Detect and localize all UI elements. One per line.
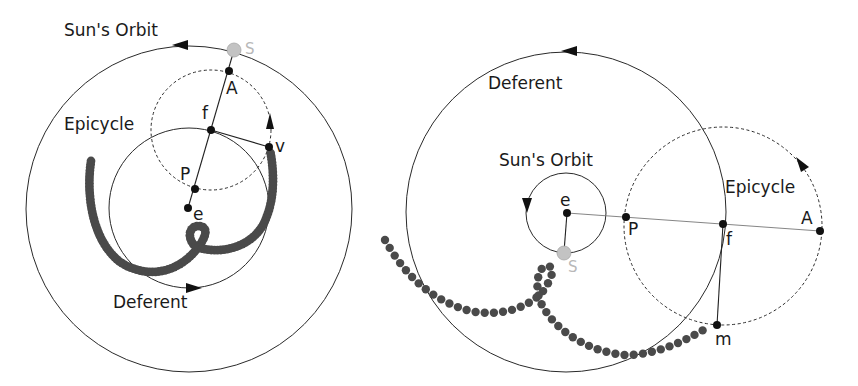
trail-dot [602,348,610,356]
trail-dot [396,259,404,267]
left-point-v [265,143,273,151]
trail-dot [386,244,394,252]
left-label-f: f [202,103,209,123]
left-point-f [207,126,215,134]
ptolemaic-diagrams: S A f P e v Sun's Orbit Epicycle Deferen… [0,0,858,386]
left-sun-orbit-arrow-icon [172,40,188,50]
right-epicycle-label: Epicycle [725,177,795,197]
right-label-A: A [801,208,813,228]
left-epicycle-label: Epicycle [64,114,134,134]
trail-dot [429,290,437,298]
left-sun-orbit-label: Sun's Orbit [64,20,158,40]
trail-dot [391,251,399,259]
right-label-P: P [628,219,638,239]
trail-dot [690,331,698,339]
left-line-f-to-v [211,130,269,147]
trail-dot [508,306,516,314]
trail-dot [381,236,389,244]
trail-dot [548,315,556,323]
trail-dot [481,309,489,317]
trail-dot [525,299,533,307]
trail-dot [630,351,638,359]
right-deferent-arrow-icon [561,46,577,56]
right-panel: S e P f A m Deferent Sun's Orbit Epicycl… [381,46,824,372]
trail-dot [538,265,546,273]
trail-dot [534,291,542,299]
trail-dot [402,266,410,274]
right-sun-orbit-label: Sun's Orbit [499,150,593,170]
trail-dot [620,351,628,359]
right-sun-orbit-arrow-icon [522,198,532,213]
trail-dot [490,309,498,317]
trail-dot [611,350,619,358]
trail-dot [517,303,525,311]
right-label-m: m [715,329,732,349]
trail-dot [542,308,550,316]
left-label-P: P [180,164,190,184]
left-label-v: v [275,136,285,156]
left-deferent-label: Deferent [113,292,188,312]
right-point-A [816,227,824,235]
trail-dot [546,262,554,270]
trail-dot [554,322,562,330]
trail-dot [533,282,541,290]
left-label-e: e [193,204,203,224]
trail-dot [454,303,462,311]
right-line-f-to-m [717,224,723,325]
trail-dot [437,295,445,303]
right-point-f [719,220,727,228]
trail-dot [648,348,656,356]
left-sun-label: S [245,40,255,58]
right-planet-trail [381,236,707,359]
trail-dot [408,273,416,281]
right-label-f: f [726,229,733,249]
trail-dot [593,345,601,353]
left-deferent-arrow-icon [186,283,202,293]
trail-dot [657,345,665,353]
left-point-P [191,185,199,193]
left-label-A: A [226,78,238,98]
left-epicycle-arrow-icon [266,113,274,129]
right-deferent-label: Deferent [488,73,563,93]
left-point-e [184,204,192,212]
right-sun-label: S [568,258,578,276]
trail-dot [471,308,479,316]
trail-dot [499,308,507,316]
right-epicycle-arrow-icon [796,157,809,172]
trail-dot [698,326,706,334]
trail-dot [462,306,470,314]
trail-dot [422,285,430,293]
left-panel: S A f P e v Sun's Orbit Epicycle Deferen… [26,20,352,372]
trail-dot [665,342,673,350]
right-label-e: e [560,190,570,210]
trail-dot [445,299,453,307]
right-point-m [713,321,721,329]
trail-dot [534,273,542,281]
trail-dot [561,328,569,336]
trail-dot [544,279,552,287]
left-point-A [225,67,233,75]
right-point-e [563,209,571,217]
trail-dot [585,342,593,350]
trail-dot [415,279,423,287]
trail-dot [547,271,555,279]
trail-dot [639,349,647,357]
trail-dot [674,339,682,347]
left-sun-icon [227,43,241,57]
trail-dot [537,300,545,308]
trail-dot [577,338,585,346]
trail-dot [569,333,577,341]
trail-dot [682,335,690,343]
